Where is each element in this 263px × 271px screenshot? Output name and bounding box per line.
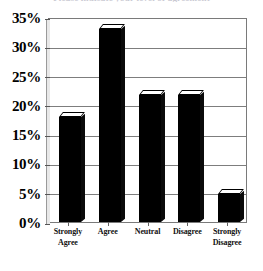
bar-side-face [240, 191, 244, 222]
bar [59, 111, 81, 222]
bar [218, 188, 240, 222]
x-tick-label-line2: Disagree [207, 237, 247, 248]
bar-side-face [81, 113, 85, 222]
y-tick-mark [45, 48, 50, 49]
y-tick-mark [45, 77, 50, 78]
bar-front-face [59, 117, 81, 222]
bar-front-face [99, 29, 121, 222]
bar-front-face [218, 194, 240, 222]
bar [178, 89, 200, 222]
bar [99, 23, 121, 222]
y-tick-label: 15% [12, 127, 41, 144]
y-tick-mark [45, 106, 50, 107]
gridline [50, 48, 246, 49]
y-tick-label: 0% [19, 215, 41, 232]
bar-front-face [178, 95, 200, 222]
y-tick-mark [45, 136, 50, 137]
x-tick-label: Disagree [167, 226, 207, 237]
x-tick-label-line1: Disagree [167, 226, 207, 237]
x-tick-label-line1: Strongly [48, 226, 88, 237]
y-tick-label: 20% [12, 97, 41, 114]
bar-top-face [59, 112, 85, 117]
y-tick-label: 35% [12, 10, 41, 27]
chart-screenshot: Please indicate your level of agreement … [0, 0, 263, 271]
plot-area [48, 18, 247, 223]
y-tick-label: 5% [19, 185, 41, 202]
y-tick-label: 25% [12, 68, 41, 85]
x-tick-label: Neutral [128, 226, 168, 237]
y-tick-mark [45, 224, 50, 225]
chart-title: Please indicate your level of agreement [0, 0, 263, 2]
x-tick-label-line1: Strongly [207, 226, 247, 237]
y-tick-mark [45, 165, 50, 166]
bar-side-face [200, 92, 204, 222]
y-axis: 35%30%25%20%15%10%5%0% [0, 18, 44, 223]
bar-top-face [139, 90, 165, 95]
x-tick-label: StronglyAgree [48, 226, 88, 248]
bar-side-face [121, 26, 125, 222]
y-tick-label: 30% [12, 39, 41, 56]
x-axis: StronglyAgreeAgreeNeutralDisagreeStrongl… [48, 226, 247, 266]
y-tick-mark [45, 194, 50, 195]
bar-front-face [139, 95, 161, 222]
y-tick-mark [45, 19, 50, 20]
x-tick-label-line1: Neutral [128, 226, 168, 237]
x-tick-label-line1: Agree [88, 226, 128, 237]
bar-top-face [99, 24, 125, 29]
bar-side-face [161, 92, 165, 222]
bar-top-face [178, 90, 204, 95]
bar-top-face [218, 189, 244, 194]
y-tick-label: 10% [12, 156, 41, 173]
x-tick-label: StronglyDisagree [207, 226, 247, 248]
x-tick-label-line2: Agree [48, 237, 88, 248]
bar [139, 89, 161, 222]
x-tick-label: Agree [88, 226, 128, 237]
gridline [50, 77, 246, 78]
